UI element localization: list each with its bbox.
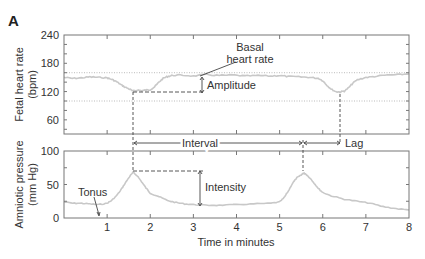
x-tick-label: 4 [233, 221, 239, 233]
x-tick-label: 3 [190, 221, 196, 233]
lag-label: Lag [345, 137, 363, 149]
tonus-pointer [94, 197, 99, 215]
y-tick-label: 60 [47, 114, 59, 126]
upper-y-axis-label-line2: (bpm) [26, 70, 38, 99]
lower-y-tick-labels: 050100 [41, 145, 59, 224]
x-tick-label: 2 [147, 221, 153, 233]
x-tick-label: 6 [320, 221, 326, 233]
intensity-label: Intensity [205, 181, 246, 193]
upper-y-axis-label-line1: Fetal heart rate [13, 47, 25, 122]
upper-y-tick-labels: 60120180240 [41, 29, 59, 126]
y-tick-label: 240 [41, 29, 59, 41]
x-tick-label: 1 [104, 221, 110, 233]
y-tick-label: 0 [53, 212, 59, 224]
tonus-label: Tonus [78, 186, 108, 198]
x-tick-label: 8 [406, 221, 412, 233]
basal-heart-rate-label-line1: Basal [236, 41, 264, 53]
annotation-labels: Basal heart rate Amplitude Interval Lag … [78, 41, 363, 198]
lower-y-axis-label-line1: Amniotic pressure [13, 140, 25, 228]
x-axis-label: Time in minutes [197, 236, 275, 248]
x-tick-label: 5 [277, 221, 283, 233]
y-tick-label: 120 [41, 86, 59, 98]
lower-y-axis-label-line2: (mm Hg) [26, 163, 38, 206]
panel-label: A [8, 12, 19, 29]
basal-heart-rate-label-line2: heart rate [226, 53, 273, 65]
amniotic-pressure-plot: 050100 12345678 Amniotic pressure (mm Hg… [13, 140, 412, 248]
x-tick-label: 7 [363, 221, 369, 233]
amplitude-label: Amplitude [207, 79, 256, 91]
y-tick-label: 100 [41, 145, 59, 157]
x-tick-labels: 12345678 [104, 221, 412, 233]
y-tick-label: 180 [41, 57, 59, 69]
y-tick-label: 50 [47, 179, 59, 191]
chart-figure: A 60120180240 Fetal heart rate (bpm) 050… [0, 0, 425, 259]
interval-label: Interval [182, 137, 218, 149]
